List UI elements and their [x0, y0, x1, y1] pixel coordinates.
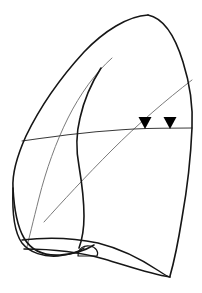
figure-root	[0, 0, 202, 293]
lung-diagram	[0, 0, 202, 293]
